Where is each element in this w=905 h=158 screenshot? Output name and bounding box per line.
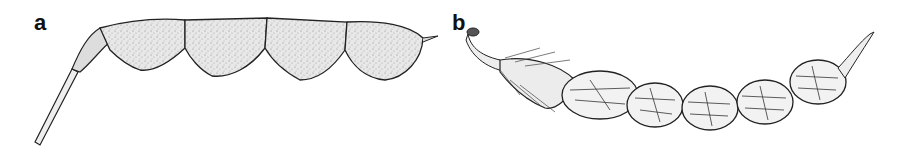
pod-b-segment-3 [682, 86, 738, 130]
pod-b-segment-5 [790, 60, 846, 104]
pod-b-beak [838, 32, 874, 78]
pod-a-beak [423, 36, 438, 42]
pod-b-segment-4 [737, 80, 793, 124]
pod-a-segment-4 [345, 22, 423, 80]
pod-a-segment-2 [185, 18, 267, 76]
pod-a-stalk [35, 69, 78, 145]
pod-a-segment-1 [100, 19, 185, 70]
pod-illustration-b [466, 28, 874, 130]
pod-a-segment-3 [265, 18, 347, 80]
pod-b-stalk-tip [467, 28, 479, 36]
figure-canvas [0, 0, 905, 158]
pod-illustration-a [35, 18, 438, 145]
